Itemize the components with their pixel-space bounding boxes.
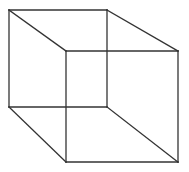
cube-edge-back-top-right-to-front-top-right (107, 10, 178, 51)
cube-edge-back-bottom-left-to-front-bottom-left (9, 107, 66, 162)
cube-edges (9, 10, 178, 162)
necker-cube-diagram (0, 0, 189, 172)
cube-edge-back-bottom-right-to-front-bottom-right (107, 107, 178, 162)
cube-edge-back-top-left-to-front-top-left (9, 10, 66, 51)
